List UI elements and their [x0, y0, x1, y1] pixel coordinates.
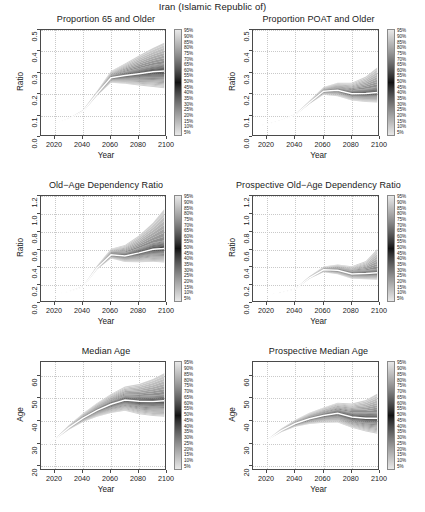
- panel-title: Proportion POAT and Older: [212, 14, 425, 24]
- x-tick-label: 2040: [280, 140, 308, 149]
- legend-color-bar: [387, 361, 395, 470]
- legend-label: 50%: [184, 80, 193, 85]
- x-tick: [138, 470, 139, 473]
- x-axis-label: Year: [212, 151, 425, 160]
- y-tick-label: 0.6: [30, 248, 39, 264]
- legend-color-bar: [174, 29, 182, 136]
- legend-label: 30%: [397, 436, 406, 441]
- legend-label: 35%: [184, 97, 193, 102]
- y-tick-label: 30: [30, 442, 39, 458]
- legend-label: 5%: [184, 131, 191, 136]
- plot-area: [252, 195, 379, 302]
- x-tick: [351, 302, 352, 305]
- legend-label: 50%: [397, 246, 406, 251]
- x-tick-label: 2100: [152, 474, 180, 483]
- x-tick: [266, 136, 267, 139]
- x-tick-label: 2060: [309, 306, 337, 315]
- y-tick-label: 30: [242, 442, 251, 458]
- legend-label: 75%: [397, 52, 406, 57]
- panel-title: Proportion 65 and Older: [0, 14, 212, 24]
- legend-label: 5%: [184, 465, 191, 470]
- x-tick: [82, 470, 83, 473]
- y-tick-label: 0.3: [242, 71, 251, 87]
- plot-area: [40, 195, 166, 302]
- y-tick-label: 0.2: [242, 93, 251, 109]
- legend-label: 85%: [397, 373, 406, 378]
- y-tick-label: 0.2: [30, 93, 39, 109]
- legend-label: 50%: [397, 80, 406, 85]
- x-axis-label: Year: [0, 317, 212, 326]
- y-tick-label: 0.1: [30, 114, 39, 130]
- panel-bottom-left: Median Age202020402060208021002030405060…: [0, 346, 212, 512]
- y-tick-label: 1.2: [242, 195, 251, 211]
- legend-label: 65%: [397, 396, 406, 401]
- fan-legend: 95%90%85%80%75%70%65%60%55%50%45%40%35%3…: [387, 195, 423, 302]
- y-tick-label: 40: [30, 420, 39, 436]
- uncertainty-fan: [253, 196, 379, 302]
- x-tick: [54, 136, 55, 139]
- projection-figure: Iran (Islamic Republic of) Proportion 65…: [0, 0, 425, 512]
- panel-middle-right: Prospective Old−Age Dependency Ratio2020…: [212, 180, 425, 344]
- x-tick: [54, 470, 55, 473]
- x-tick: [54, 302, 55, 305]
- x-tick-label: 2040: [68, 306, 96, 315]
- x-tick-label: 2100: [152, 306, 180, 315]
- legend-label: 5%: [184, 297, 191, 302]
- legend-label: 5%: [397, 131, 404, 136]
- x-tick-label: 2020: [252, 474, 280, 483]
- x-tick-label: 2020: [252, 140, 280, 149]
- y-axis-label: Ratio: [228, 227, 237, 267]
- legend-color-bar: [387, 29, 395, 136]
- legend-label: 5%: [397, 297, 404, 302]
- y-tick-label: 0.8: [30, 230, 39, 246]
- x-tick: [294, 136, 295, 139]
- legend-label: 90%: [397, 35, 406, 40]
- x-tick: [266, 470, 267, 473]
- y-tick-label: 0.1: [242, 114, 251, 130]
- x-tick: [351, 136, 352, 139]
- legend-color-bar: [174, 361, 182, 470]
- x-tick: [294, 470, 295, 473]
- x-tick: [323, 470, 324, 473]
- plot-area: [252, 29, 379, 136]
- y-tick-label: 40: [242, 420, 251, 436]
- y-axis-label: Ratio: [16, 61, 25, 101]
- uncertainty-fan: [41, 196, 166, 302]
- legend-label: 35%: [184, 263, 193, 268]
- legend-label: 90%: [397, 201, 406, 206]
- y-tick-label: 0.4: [242, 266, 251, 282]
- x-tick-label: 2080: [124, 140, 152, 149]
- legend-label: 20%: [184, 114, 193, 119]
- legend-label: 25%: [397, 442, 406, 447]
- legend-label: 75%: [397, 218, 406, 223]
- panel-title: Prospective Median Age: [212, 346, 425, 356]
- fan-legend: 95%90%85%80%75%70%65%60%55%50%45%40%35%3…: [174, 361, 210, 470]
- x-tick-label: 2080: [337, 474, 365, 483]
- x-tick-label: 2020: [40, 306, 68, 315]
- x-tick: [379, 470, 380, 473]
- x-tick-label: 2100: [365, 306, 393, 315]
- x-tick-label: 2080: [124, 306, 152, 315]
- x-tick: [323, 136, 324, 139]
- x-tick-label: 2060: [309, 140, 337, 149]
- x-tick-label: 2060: [96, 140, 124, 149]
- x-tick: [294, 302, 295, 305]
- x-axis-label: Year: [0, 151, 212, 160]
- y-tick-label: 0.0: [30, 136, 39, 152]
- y-axis-label: Age: [228, 394, 237, 434]
- x-tick: [379, 136, 380, 139]
- y-tick-label: 0.4: [30, 266, 39, 282]
- uncertainty-fan: [253, 30, 379, 136]
- y-tick-label: 50: [242, 397, 251, 413]
- legend-label: 20%: [397, 114, 406, 119]
- plot-area: [252, 361, 379, 470]
- y-tick-label: 60: [242, 374, 251, 390]
- legend-color-bar: [174, 195, 182, 302]
- x-tick-label: 2040: [280, 474, 308, 483]
- panel-title: Median Age: [0, 346, 212, 356]
- legend-label: 65%: [184, 396, 193, 401]
- y-tick-label: 0.0: [242, 302, 251, 318]
- legend-label: 75%: [184, 218, 193, 223]
- panel-title: Prospective Old−Age Dependency Ratio: [212, 180, 425, 190]
- x-tick: [82, 302, 83, 305]
